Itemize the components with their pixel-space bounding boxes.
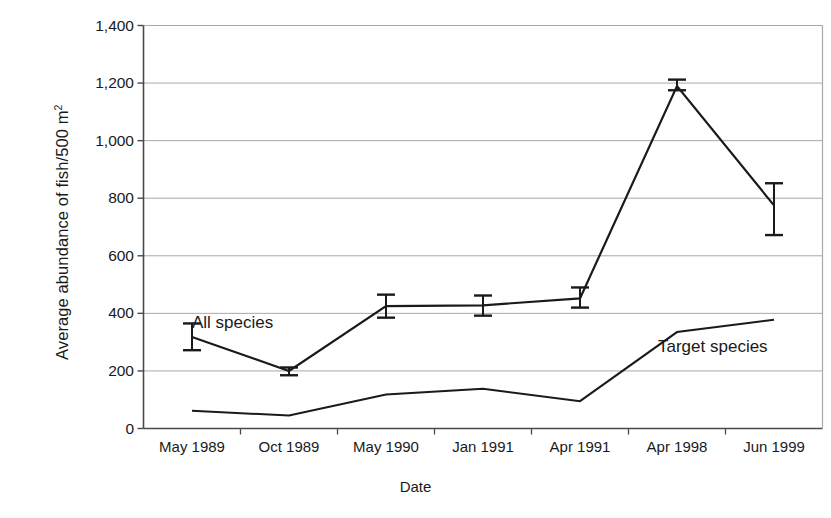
y-axis-ticks [138, 26, 144, 429]
error-bar-0 [183, 323, 201, 350]
chart-figure: Average abundance of fish/500 m2 0200400… [0, 0, 831, 518]
error-bar-6 [765, 183, 783, 235]
gridlines [144, 26, 823, 371]
x-axis-ticks [241, 429, 726, 435]
error-bar-4 [571, 287, 589, 307]
axis-lines [144, 26, 823, 429]
plot-area [0, 0, 831, 518]
series-line-all-species [192, 86, 774, 371]
data-series-layer [183, 80, 783, 416]
error-bar-5 [668, 80, 686, 91]
